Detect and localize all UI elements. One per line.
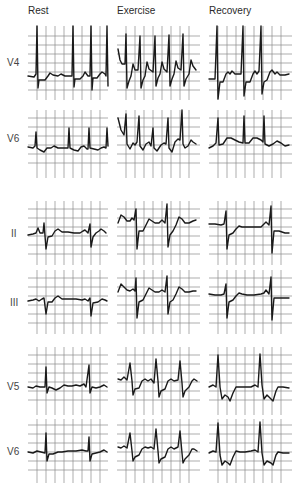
ecg-panel-v4-rest [28,24,110,104]
lead-label-v6-bottom: V6 [7,446,19,457]
ecg-panel-v6b-exercise [117,419,201,487]
ecg-panel-iii-recovery [209,270,293,336]
ecg-panel-iii-rest [28,270,110,336]
ecg-panel-v6-exercise [117,108,201,184]
ecg-panel-v4-exercise [117,24,201,104]
lead-label-v6-top: V6 [7,133,19,144]
ecg-panel-ii-recovery [209,201,293,267]
column-title-rest: Rest [28,5,49,16]
ecg-panel-ii-exercise [117,201,201,267]
ecg-panel-v6b-rest [28,419,110,487]
lead-label-v5: V5 [7,381,19,392]
lead-label-ii: II [11,228,17,239]
column-title-exercise: Exercise [117,5,155,16]
ecg-panel-v4-recovery [209,24,293,104]
ecg-panel-v5-recovery [209,347,293,419]
lead-label-v4: V4 [7,57,19,68]
ecg-panel-v6b-recovery [209,419,293,487]
ecg-panel-v5-rest [28,347,110,419]
column-title-recovery: Recovery [209,5,251,16]
ecg-panel-v6-rest [28,108,110,184]
ecg-panel-ii-rest [28,201,110,267]
ecg-panel-iii-exercise [117,270,201,336]
ecg-panel-v6-recovery [209,108,293,184]
ecg-panel-v5-exercise [117,347,201,419]
lead-label-iii: III [10,297,18,308]
